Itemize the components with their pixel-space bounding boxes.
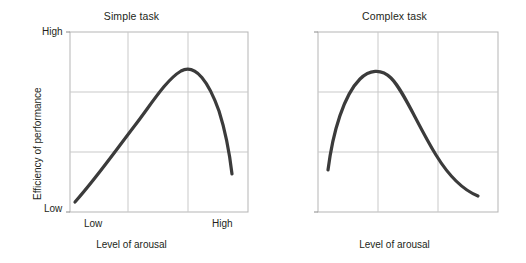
plot-area-complex-task bbox=[263, 0, 526, 263]
x-axis-tick-high: High bbox=[212, 218, 233, 229]
chart-panel-simple-task: Simple task Efficiency of performance Hi… bbox=[0, 0, 263, 263]
figure-container: Simple task Efficiency of performance Hi… bbox=[0, 0, 526, 263]
y-axis-tick-low: Low bbox=[44, 203, 62, 214]
y-axis-label: Efficiency of performance bbox=[32, 87, 43, 200]
plot-frame bbox=[318, 32, 498, 212]
x-axis-label: Level of arousal bbox=[263, 239, 526, 250]
data-curve-simple-task bbox=[75, 69, 232, 202]
data-curve-complex-task bbox=[328, 71, 478, 196]
x-axis-tick-low: Low bbox=[84, 218, 102, 229]
y-axis-tick-high: High bbox=[42, 26, 63, 37]
x-axis-label: Level of arousal bbox=[0, 239, 263, 250]
chart-panel-complex-task: Complex task Efficiency of performance H… bbox=[263, 0, 526, 263]
